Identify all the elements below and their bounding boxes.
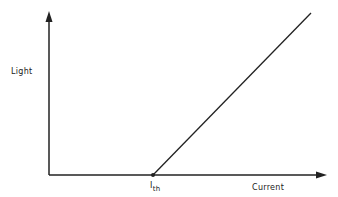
x-axis-arrow-icon bbox=[316, 172, 327, 179]
threshold-label: Ith bbox=[150, 181, 160, 190]
y-axis-arrow-icon bbox=[46, 11, 53, 22]
plot-area bbox=[0, 0, 338, 197]
light-current-line bbox=[153, 13, 311, 175]
x-axis-label: Current bbox=[252, 183, 284, 192]
diagram: Light Current Ith bbox=[0, 0, 338, 197]
threshold-label-sub: th bbox=[153, 185, 161, 193]
y-axis-label: Light bbox=[11, 67, 32, 76]
threshold-point bbox=[151, 173, 155, 177]
